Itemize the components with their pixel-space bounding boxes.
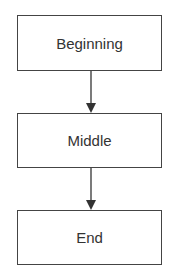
arrow-2-head — [86, 200, 96, 210]
node-label: Middle — [67, 132, 111, 149]
arrow-1-head — [86, 103, 96, 113]
node-end: End — [17, 210, 162, 265]
node-beginning: Beginning — [17, 15, 162, 71]
node-label: Beginning — [56, 35, 123, 52]
node-label: End — [76, 229, 103, 246]
node-middle: Middle — [17, 113, 162, 168]
